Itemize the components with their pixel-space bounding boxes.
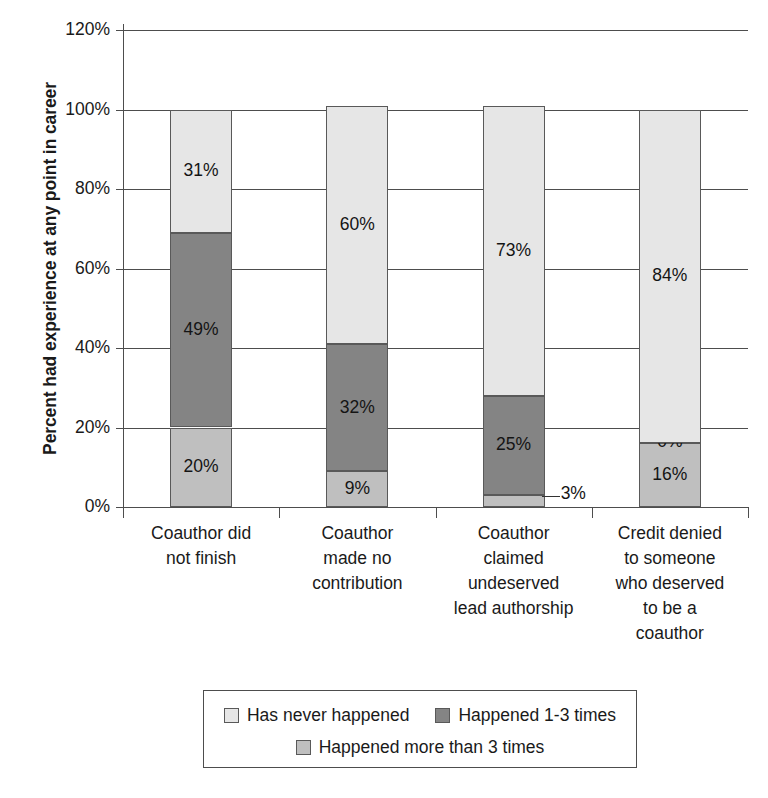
category-label-line: who deserved: [584, 571, 756, 596]
bar-segment-value-label: 20%: [170, 456, 232, 477]
y-axis-tick-label: 40%: [22, 337, 110, 358]
bar-segment-value-label: 25%: [483, 434, 545, 455]
y-axis-tick-label: 80%: [22, 178, 110, 199]
stacked-bar-chart: Percent had experience at any point in c…: [0, 0, 768, 798]
x-axis-tick-mark: [123, 507, 124, 518]
legend-item-happened-more-than-3-times[interactable]: Happened more than 3 times: [296, 737, 545, 758]
x-axis-tick-mark: [279, 507, 280, 518]
category-label-line: to be a: [584, 596, 756, 621]
bar-segment-value-label: 49%: [170, 319, 232, 340]
legend: Has never happened Happened 1-3 times Ha…: [203, 690, 637, 768]
x-axis-tick-mark: [436, 507, 437, 518]
legend-item-label: Happened 1-3 times: [458, 705, 616, 726]
category-label-line: lead authorship: [428, 596, 600, 621]
category-label-line: Credit denied: [584, 521, 756, 546]
bar-segment-value-label: 16%: [639, 464, 701, 485]
category-label-line: to someone: [584, 546, 756, 571]
y-axis-tick-label: 20%: [22, 417, 110, 438]
category-label-line: Coauthor: [271, 521, 443, 546]
gridline: [123, 30, 748, 31]
legend-swatch-icon: [224, 708, 239, 723]
category-label-line: Coauthor: [428, 521, 600, 546]
legend-row-2: Happened more than 3 times: [204, 731, 636, 763]
category-label-line: contribution: [271, 571, 443, 596]
x-axis-category-label: Coauthormade nocontribution: [271, 521, 443, 596]
category-label-line: Coauthor did: [115, 521, 287, 546]
legend-item-has-never-happened[interactable]: Has never happened: [224, 705, 409, 726]
bar-segment-value-label: 9%: [326, 478, 388, 499]
legend-swatch-icon: [435, 708, 450, 723]
y-axis-tick-label: 100%: [22, 99, 110, 120]
legend-row-1: Has never happened Happened 1-3 times: [204, 699, 636, 731]
bar-segment-value-label: 84%: [639, 265, 701, 286]
bar-segment-happened-more-than-3-times[interactable]: [483, 495, 545, 507]
x-axis-category-label: Coauthorclaimedundeservedlead authorship: [428, 521, 600, 621]
y-axis-tick-label: 120%: [22, 19, 110, 40]
legend-swatch-icon: [296, 740, 311, 755]
x-axis-tick-mark: [748, 507, 749, 518]
value-label-leader-line: [542, 496, 560, 497]
x-axis-tick-mark: [592, 507, 593, 518]
legend-item-label: Has never happened: [247, 705, 409, 726]
category-label-line: claimed: [428, 546, 600, 571]
legend-item-happened-1-3-times[interactable]: Happened 1-3 times: [435, 705, 616, 726]
plot-area: 20%49%31%9%32%60%3%25%73%16%0%84%: [123, 30, 748, 507]
x-axis-category-label: Credit deniedto someonewho deservedto be…: [584, 521, 756, 646]
category-label-line: undeserved: [428, 571, 600, 596]
bar-segment-value-label: 32%: [326, 397, 388, 418]
category-label-line: not finish: [115, 546, 287, 571]
bar-segment-value-label: 60%: [326, 214, 388, 235]
y-axis-tick-label: 60%: [22, 258, 110, 279]
bar-segment-value-label: 31%: [170, 160, 232, 181]
y-axis-tick-label: 0%: [22, 496, 110, 517]
bar-segment-value-label: 73%: [483, 240, 545, 261]
category-label-line: made no: [271, 546, 443, 571]
legend-item-label: Happened more than 3 times: [319, 737, 545, 758]
category-label-line: coauthor: [584, 621, 756, 646]
bar-segment-value-label: 3%: [561, 483, 586, 504]
x-axis-category-label: Coauthor didnot finish: [115, 521, 287, 571]
